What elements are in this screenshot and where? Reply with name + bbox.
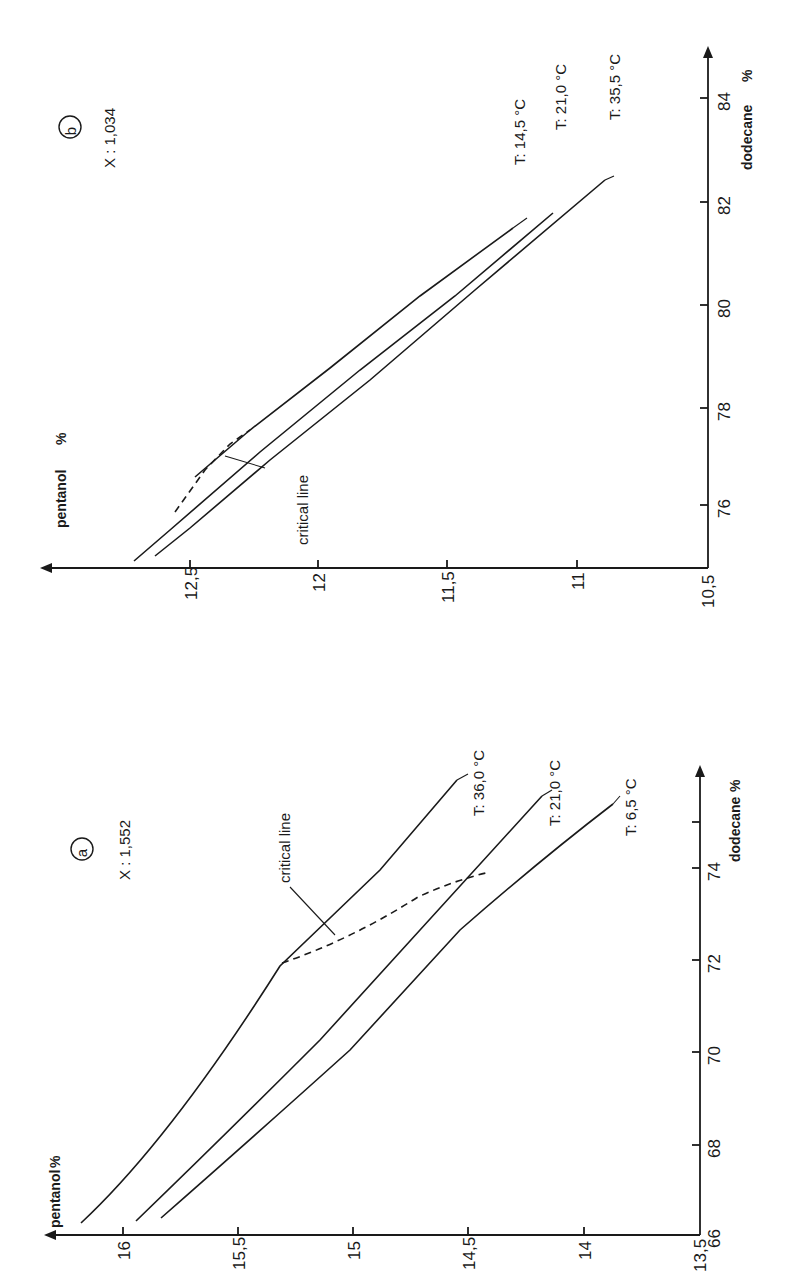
panel-b-marker: b <box>62 127 79 135</box>
panel-a-series-label: T: 21,0 °C <box>546 760 563 826</box>
panel-a-series-label: T: 6,5 °C <box>622 778 639 836</box>
panel-b-series-label: T: 21,0 °C <box>552 64 569 130</box>
tick-label: 12,5 <box>182 567 201 600</box>
panel-a-curve-6-5 <box>161 804 613 1218</box>
tick-label: 11 <box>569 572 588 590</box>
panel-a-dodecane-ticks <box>692 822 700 1145</box>
panel-a-xlabel-unit: % <box>727 779 743 792</box>
tick-label: 66 <box>705 1229 724 1248</box>
tick-label: 80 <box>715 299 734 318</box>
tick-label: 15,5 <box>230 1237 249 1270</box>
panel-b-x-value: X : 1,034 <box>101 108 118 168</box>
tick-label: 14 <box>576 1241 595 1260</box>
panel-a-ylabel-unit: % <box>47 1155 63 1168</box>
panel-a-critical-line <box>282 872 490 963</box>
panel-a-curve-36-0 <box>81 780 457 1223</box>
panel-a-pentanol-ticks <box>123 1227 584 1235</box>
panel-b-critical-leader <box>225 456 265 468</box>
panel-a-critical-leader <box>290 887 335 935</box>
panel-b-curve-35-5 <box>155 180 605 556</box>
tick-label: 76 <box>715 499 734 518</box>
panel-a-dodecane-arrow-icon <box>695 765 705 777</box>
tick-label: 11,5 <box>439 571 458 603</box>
tick-label: 16 <box>115 1241 134 1260</box>
figure: 12,5 12 11,5 11 10,5 76 78 80 82 84 pent… <box>0 0 794 1284</box>
panel-b-pentanol-tick-labels: 12,5 12 11,5 11 10,5 <box>182 567 718 608</box>
panel-b-dodecane-ticks <box>700 98 708 505</box>
panel-a-series-label: T: 36,0 °C <box>470 750 487 816</box>
tick-label: 15 <box>345 1241 364 1260</box>
panel-a-x-value: X : 1,552 <box>116 820 133 880</box>
panel-a-pentanol-tick-labels: 16 15,5 15 14,5 14 13,5 <box>115 1237 710 1272</box>
panel-a-critical-label: critical line <box>276 813 293 883</box>
panel-b-series-label: T: 35,5 °C <box>606 54 623 120</box>
panel-b-curve-21-0 <box>134 213 553 561</box>
panel-a-marker: a <box>73 848 90 857</box>
panel-b-xlabel: dodecane <box>739 104 755 170</box>
tick-label: 70 <box>705 1046 724 1065</box>
panel-a: 16 15,5 15 14,5 14 13,5 66 68 70 72 74 p… <box>44 750 743 1272</box>
panel-b-pentanol-ticks <box>190 560 577 568</box>
panel-b-ylabel-unit: % <box>53 432 69 445</box>
panel-b-curve-14-5 <box>195 228 513 477</box>
tick-label: 10,5 <box>699 575 718 608</box>
panel-a-xlabel: dodecane <box>727 796 743 862</box>
tick-label: 78 <box>715 402 734 421</box>
tick-label: 82 <box>715 196 734 215</box>
panel-b: 12,5 12 11,5 11 10,5 76 78 80 82 84 pent… <box>40 46 755 608</box>
panel-a-dodecane-tick-labels: 66 68 70 72 74 <box>705 862 724 1248</box>
panel-b-critical-label: critical line <box>294 475 311 545</box>
panel-b-series-label: T: 14,5 °C <box>511 99 528 165</box>
panel-b-dodecane-arrow-icon <box>703 46 713 58</box>
panel-b-pentanol-arrow-icon <box>40 563 52 573</box>
panel-a-curve-21-0 <box>136 796 542 1221</box>
tick-label: 72 <box>705 954 724 973</box>
panel-b-xlabel-unit: % <box>739 69 755 82</box>
tick-label: 68 <box>705 1139 724 1158</box>
tick-label: 12 <box>310 573 329 592</box>
tick-label: 74 <box>705 862 724 881</box>
panel-b-ylabel: pentanol <box>53 470 69 528</box>
tick-label: 84 <box>715 92 734 111</box>
panel-a-pentanol-arrow-icon <box>44 1230 56 1240</box>
tick-label: 14,5 <box>460 1237 479 1270</box>
panel-a-ylabel: pentanol <box>47 1170 63 1228</box>
panel-b-dodecane-tick-labels: 76 78 80 82 84 <box>715 92 734 518</box>
